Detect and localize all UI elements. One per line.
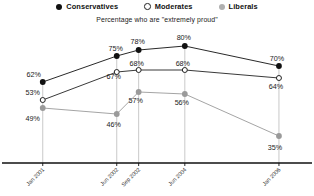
series-line-moderates [43, 70, 279, 100]
data-label: 46% [107, 120, 122, 129]
data-label: 35% [268, 143, 283, 152]
data-label: 67% [107, 72, 122, 81]
series-line-conservatives [43, 46, 279, 82]
data-point[interactable] [136, 89, 142, 95]
data-point[interactable] [276, 63, 282, 69]
data-label: 80% [177, 33, 192, 42]
plot-area: 62%75%78%80%70%53%67%68%68%64%49%46%57%5… [0, 0, 314, 196]
data-point[interactable] [276, 76, 281, 81]
data-label: 78% [130, 37, 145, 46]
axis-tick-label: Jun 2002 [99, 166, 120, 187]
data-label: 64% [269, 82, 284, 91]
axis-tick-label: Sep 2002 [120, 166, 141, 187]
chart-container: Conservatives Moderates Liberals Percent… [0, 0, 314, 196]
data-point[interactable] [182, 91, 188, 97]
data-label: 75% [109, 44, 124, 53]
data-label: 56% [175, 98, 190, 107]
data-label: 70% [270, 54, 285, 63]
data-label: 68% [129, 59, 144, 68]
data-point[interactable] [136, 47, 142, 53]
data-label: 57% [128, 96, 143, 105]
data-point[interactable] [182, 68, 187, 73]
data-point[interactable] [136, 68, 141, 73]
axis-tick-label: Jan 2001 [25, 166, 46, 187]
data-label: 49% [26, 114, 41, 123]
data-point[interactable] [114, 111, 120, 117]
axis-tick-label: Jun 2004 [167, 166, 188, 187]
axis-tick-label: Jan 2006 [261, 166, 282, 187]
plot-svg: 62%75%78%80%70%53%67%68%68%64%49%46%57%5… [0, 0, 314, 196]
data-label: 53% [26, 88, 41, 97]
data-point[interactable] [182, 43, 188, 49]
data-label: 68% [176, 59, 191, 68]
data-point[interactable] [40, 98, 45, 103]
data-point[interactable] [40, 105, 46, 111]
data-label: 62% [27, 70, 42, 79]
data-point[interactable] [114, 53, 120, 59]
data-point[interactable] [40, 79, 46, 85]
series-line-liberals [43, 92, 279, 136]
data-point[interactable] [276, 133, 282, 139]
